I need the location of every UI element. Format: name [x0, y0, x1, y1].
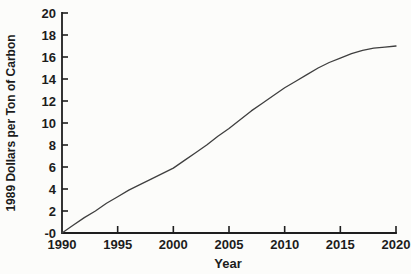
- y-tick-label: 8: [49, 138, 56, 153]
- chart-canvas: -024681012141618201990199520002005201020…: [0, 0, 411, 274]
- tick-labels: -024681012141618201990199520002005201020…: [42, 6, 411, 253]
- x-tick-label: 1990: [48, 237, 77, 252]
- y-tick-label: 4: [49, 182, 57, 197]
- y-tick-label: 20: [42, 6, 56, 21]
- x-axis-title: Year: [214, 256, 241, 271]
- x-tick-label: 2010: [270, 237, 299, 252]
- y-axis-title: 1989 Dollars per Ton of Carbon: [4, 34, 18, 211]
- x-tick-label: 1995: [103, 237, 132, 252]
- x-tick-label: 2015: [326, 237, 355, 252]
- y-tick-label: 14: [42, 72, 57, 87]
- y-tick-label: 10: [42, 116, 56, 131]
- y-tick-label: 2: [49, 204, 56, 219]
- line-chart-figure: -024681012141618201990199520002005201020…: [0, 0, 411, 274]
- x-tick-label: 2000: [159, 237, 188, 252]
- data-line: [62, 46, 396, 233]
- x-tick-label: 2005: [215, 237, 244, 252]
- x-tick-label: 2020: [382, 237, 411, 252]
- y-tick-label: 12: [42, 94, 56, 109]
- y-tick-label: 16: [42, 50, 56, 65]
- y-tick-label: 6: [49, 160, 56, 175]
- y-tick-label: 18: [42, 28, 56, 43]
